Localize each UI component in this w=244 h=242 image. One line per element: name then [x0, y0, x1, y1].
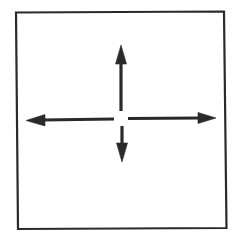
- arrow-right-icon: [128, 113, 216, 124]
- arrow-down-icon: [117, 126, 128, 162]
- arrow-left-icon: [26, 115, 114, 127]
- arrows-diagram: [0, 0, 244, 242]
- arrow-up-icon: [116, 45, 127, 111]
